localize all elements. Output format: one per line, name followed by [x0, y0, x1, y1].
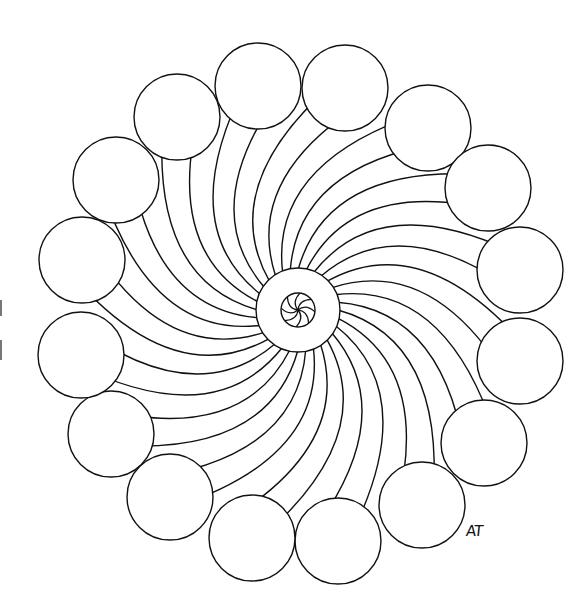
outer-circle — [134, 74, 220, 160]
outer-circle — [302, 45, 388, 131]
outer-circle — [73, 137, 159, 223]
outer-circle — [379, 462, 465, 548]
artist-signature: AT — [465, 522, 483, 540]
outer-circle — [477, 318, 563, 404]
outer-circle — [477, 227, 563, 313]
mandala-drawing — [0, 0, 569, 615]
outer-circle — [39, 217, 125, 303]
outer-circle — [209, 495, 295, 581]
outer-circle — [441, 400, 527, 486]
outer-circle — [295, 498, 381, 584]
outer-circle — [127, 454, 213, 540]
outer-circle — [215, 43, 301, 129]
outer-circle — [68, 391, 154, 477]
outer-circle — [445, 145, 531, 231]
outer-circle — [38, 312, 124, 398]
